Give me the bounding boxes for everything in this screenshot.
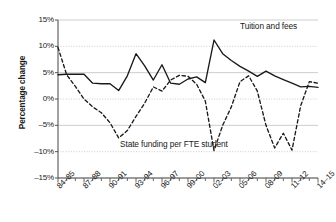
series-line-tuition-and-fees <box>58 40 318 91</box>
series-lines <box>58 40 318 151</box>
series-label-state-funding: State funding per FTE student <box>120 139 228 149</box>
series-label-tuition-and-fees: Tuition and fees <box>240 21 297 31</box>
gridlines <box>58 20 318 178</box>
